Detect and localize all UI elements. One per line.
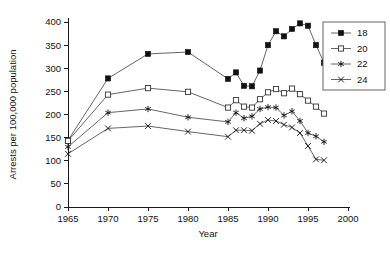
data-point-open-square	[105, 92, 110, 97]
y-tick-label: 400	[45, 16, 61, 27]
legend-label-20: 20	[357, 43, 368, 54]
x-tick-label: 1995	[297, 213, 318, 224]
data-point-filled-square	[249, 84, 254, 89]
data-point-filled-square	[185, 49, 190, 54]
data-point-open-square	[145, 86, 150, 91]
chart-svg: 0501001502002503003504001965197019751980…	[0, 0, 390, 259]
data-point-open-square	[313, 104, 318, 109]
y-tick-label: 250	[45, 86, 61, 97]
data-point-open-square	[225, 105, 230, 110]
x-tick-label: 2000	[337, 213, 358, 224]
data-point-filled-square	[273, 29, 278, 34]
x-axis-title: Year	[198, 228, 217, 239]
line-chart: 0501001502002503003504001965197019751980…	[0, 0, 390, 259]
data-point-open-square	[305, 98, 310, 103]
data-point-filled-square	[305, 23, 310, 28]
data-point-filled-square	[281, 34, 286, 39]
y-tick-label: 350	[45, 40, 61, 51]
data-point-filled-square	[225, 76, 230, 81]
data-point-open-square	[338, 46, 343, 51]
data-point-open-square	[297, 92, 302, 97]
data-point-open-square	[185, 89, 190, 94]
data-point-filled-square	[289, 26, 294, 31]
legend-label-24: 24	[357, 74, 368, 85]
y-tick-label: 100	[45, 155, 61, 166]
data-point-filled-square	[241, 83, 246, 88]
y-tick-label: 150	[45, 132, 61, 143]
y-tick-label: 50	[50, 178, 61, 189]
y-axis-ticks: 050100150200250300350400	[45, 16, 68, 212]
data-point-x	[297, 130, 303, 136]
data-point-filled-square	[233, 70, 238, 75]
y-tick-label: 200	[45, 109, 61, 120]
series-20	[65, 86, 326, 144]
data-point-x	[305, 143, 311, 149]
data-point-x	[257, 121, 263, 127]
legend: 18202224	[323, 22, 385, 90]
legend-label-22: 22	[357, 58, 368, 69]
y-tick-label: 300	[45, 63, 61, 74]
legend-label-18: 18	[357, 27, 368, 38]
data-point-open-square	[321, 111, 326, 116]
data-point-open-square	[257, 97, 262, 102]
x-tick-label: 1990	[257, 213, 278, 224]
series-18	[65, 21, 326, 143]
x-tick-label: 1980	[177, 213, 198, 224]
data-point-filled-square	[105, 76, 110, 81]
data-point-filled-square	[265, 43, 270, 48]
data-point-filled-square	[297, 21, 302, 26]
series-24	[65, 117, 327, 163]
x-tick-label: 1970	[97, 213, 118, 224]
axis-titles: YearArrests per 100,000 population	[7, 50, 218, 239]
data-point-open-square	[265, 90, 270, 95]
data-point-filled-square	[338, 30, 343, 35]
data-point-open-square	[249, 105, 254, 110]
x-axis-ticks: 19651970197519801985199019952000	[57, 207, 358, 224]
data-point-open-square	[281, 91, 286, 96]
series-22	[65, 104, 327, 150]
data-point-filled-square	[313, 43, 318, 48]
data-point-filled-square	[257, 68, 262, 73]
data-point-open-square	[233, 98, 238, 103]
data-point-star	[321, 139, 327, 145]
x-tick-label: 1975	[137, 213, 158, 224]
x-tick-label: 1965	[57, 213, 78, 224]
data-point-open-square	[241, 104, 246, 109]
data-point-open-square	[65, 138, 70, 143]
data-point-filled-square	[145, 51, 150, 56]
data-point-star	[313, 133, 319, 139]
data-point-open-square	[289, 86, 294, 91]
y-tick-label: 0	[56, 201, 61, 212]
data-point-open-square	[273, 86, 278, 91]
data-point-x	[289, 125, 295, 131]
x-tick-label: 1985	[217, 213, 238, 224]
data-point-x	[281, 122, 287, 128]
y-axis-title: Arrests per 100,000 population	[7, 50, 18, 180]
